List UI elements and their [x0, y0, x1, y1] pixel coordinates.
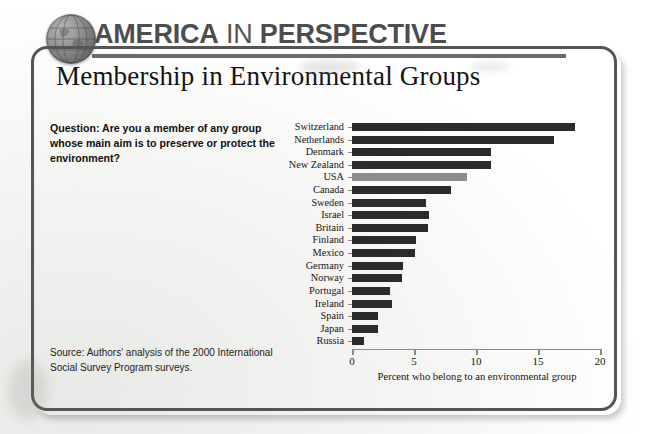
bar-chart: SwitzerlandNetherlandsDenmarkNew Zealand… [282, 121, 602, 389]
bar-switzerland [352, 123, 575, 131]
bar-mexico [352, 249, 415, 257]
bar-denmark [352, 148, 491, 156]
x-tick-label: 15 [533, 355, 544, 367]
page-title: Membership in Environmental Groups [56, 61, 480, 92]
bar-germany [352, 262, 403, 270]
x-tick-label: 0 [349, 355, 355, 367]
bar-row [352, 260, 602, 273]
scanned-page: AMERICA IN PERSPECTIVE Membership in Env… [0, 0, 651, 434]
bar-row [352, 247, 602, 260]
masthead-word-america: AMERICA [94, 19, 219, 49]
x-tick-label: 10 [471, 355, 482, 367]
bar-row [352, 197, 602, 210]
bar-portugal [352, 287, 390, 295]
x-tick-label: 5 [411, 355, 417, 367]
category-label: USA [282, 171, 348, 184]
category-label: Ireland [282, 298, 348, 311]
bar-row [352, 121, 602, 134]
category-label: Israel [282, 209, 348, 222]
bar-usa [352, 173, 467, 181]
bar-new-zealand [352, 161, 491, 169]
x-axis-title: Percent who belong to an environmental g… [352, 371, 602, 382]
bar-row [352, 184, 602, 197]
bar-finland [352, 236, 416, 244]
category-label: Japan [282, 323, 348, 336]
category-label: Denmark [282, 146, 348, 159]
category-axis-labels: SwitzerlandNetherlandsDenmarkNew Zealand… [282, 121, 348, 348]
bar-row [352, 159, 602, 172]
category-label: Canada [282, 184, 348, 197]
category-label: Finland [282, 234, 348, 247]
question-block: Question: Are you a member of any group … [50, 121, 286, 166]
bar-sweden [352, 199, 426, 207]
category-label: Norway [282, 272, 348, 285]
x-tick [538, 349, 540, 355]
bar-row [352, 310, 602, 323]
category-label: Switzerland [282, 121, 348, 134]
bar-norway [352, 274, 402, 282]
bar-row [352, 234, 602, 247]
category-label: Portugal [282, 285, 348, 298]
masthead-word-in: IN [226, 19, 253, 49]
category-label: Spain [282, 310, 348, 323]
bar-row [352, 323, 602, 336]
x-tick [476, 349, 478, 355]
x-tick [414, 349, 416, 355]
bar-russia [352, 337, 364, 345]
bar-canada [352, 186, 451, 194]
source-note: Source: Authors' analysis of the 2000 In… [50, 346, 280, 375]
question-label: Question: [50, 122, 99, 134]
bar-japan [352, 325, 378, 333]
category-label: Netherlands [282, 134, 348, 147]
bar-row [352, 209, 602, 222]
x-tick [352, 349, 354, 355]
bar-row [352, 335, 602, 348]
bar-britain [352, 224, 428, 232]
bar-ireland [352, 300, 392, 308]
bar-spain [352, 312, 378, 320]
category-label: Mexico [282, 247, 348, 260]
category-label: Russia [282, 335, 348, 348]
bar-row [352, 298, 602, 311]
x-tick-label: 20 [595, 355, 606, 367]
chart-card: Membership in Environmental Groups Quest… [31, 46, 617, 411]
bar-row [352, 134, 602, 147]
bars-container [352, 121, 602, 348]
category-label: New Zealand [282, 159, 348, 172]
bar-row [352, 285, 602, 298]
category-label: Germany [282, 260, 348, 273]
bar-netherlands [352, 136, 554, 144]
bar-israel [352, 211, 429, 219]
bar-row [352, 171, 602, 184]
x-tick [600, 349, 602, 355]
masthead-word-perspective: PERSPECTIVE [260, 19, 447, 49]
category-label: Britain [282, 222, 348, 235]
category-label: Sweden [282, 197, 348, 210]
bar-row [352, 222, 602, 235]
bar-row [352, 146, 602, 159]
bar-row [352, 272, 602, 285]
